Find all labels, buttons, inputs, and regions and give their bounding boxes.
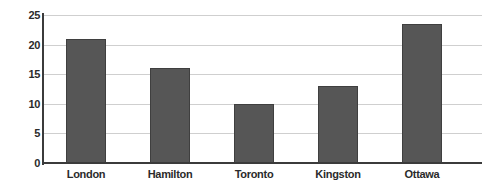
bar-hamilton[interactable] xyxy=(150,68,190,163)
bar-chart: 25 20 15 10 5 0 London Hamilton Toronto … xyxy=(0,0,499,196)
bar-london[interactable] xyxy=(66,39,106,163)
x-tick-label-ottawa: Ottawa xyxy=(377,168,467,180)
y-axis-ticks: 25 20 15 10 5 0 xyxy=(0,15,40,163)
y-tick-label: 10 xyxy=(6,98,40,110)
bar-toronto[interactable] xyxy=(234,104,274,163)
bar-ottawa[interactable] xyxy=(402,24,442,163)
x-tick-label-hamilton: Hamilton xyxy=(125,168,215,180)
x-tick-label-kingston: Kingston xyxy=(293,168,383,180)
y-axis-line xyxy=(42,13,44,165)
x-tick-label-toronto: Toronto xyxy=(209,168,299,180)
x-axis-labels: London Hamilton Toronto Kingston Ottawa xyxy=(44,168,482,190)
y-tick-label: 20 xyxy=(6,39,40,51)
x-tick-label-london: London xyxy=(41,168,131,180)
y-tick-label: 0 xyxy=(6,157,40,169)
y-tick-label: 25 xyxy=(6,9,40,21)
bar-kingston[interactable] xyxy=(318,86,358,163)
y-tick-label: 15 xyxy=(6,68,40,80)
y-tick-label: 5 xyxy=(6,127,40,139)
x-axis-line xyxy=(42,162,482,164)
bars-layer xyxy=(44,15,482,163)
